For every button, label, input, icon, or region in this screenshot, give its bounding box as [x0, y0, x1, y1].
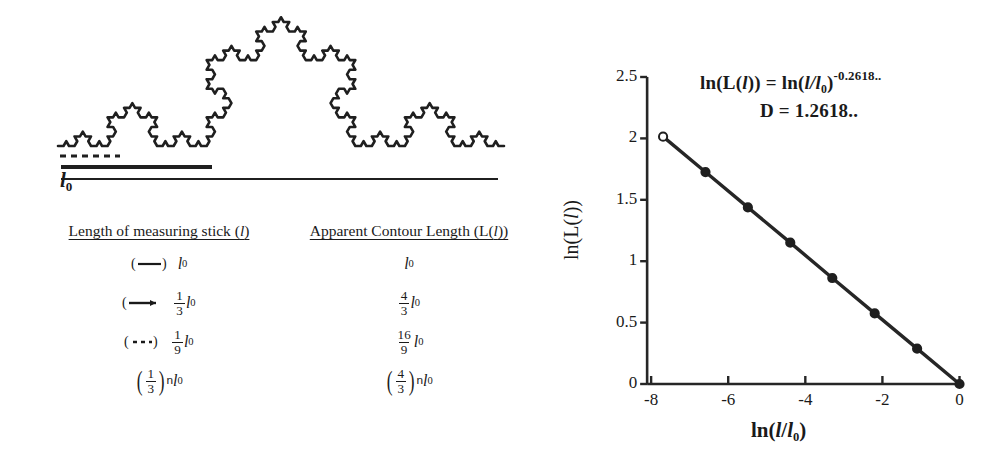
fraction-denominator: 3	[399, 303, 410, 317]
table-header-row: Length of measuring stick (l) Apparent C…	[38, 222, 538, 240]
stick-length-subscript: 0	[190, 298, 195, 309]
dimension-annotation: D = 1.2618..	[760, 100, 858, 122]
svg-text:): )	[153, 334, 158, 350]
x-axis-title: ln(l/l0)	[751, 418, 806, 445]
contour-length-exponent: n	[416, 375, 423, 387]
table-cell-contour-length: ( 4 3 )nl0	[280, 366, 538, 396]
table-cell-contour-length: 16 9 l0	[280, 327, 538, 357]
left-paren: (	[387, 369, 393, 393]
table-header-contour-length: Apparent Contour Length (L(l))	[280, 222, 538, 240]
marker-solid-thick-arrow-icon: (	[122, 295, 166, 311]
svg-text:(: (	[122, 295, 127, 311]
table-cell-contour-length: l0	[280, 249, 538, 279]
contour-length-subscript: 0	[427, 376, 432, 387]
chart-axes	[647, 77, 961, 384]
x-tick-label: -2	[857, 390, 907, 410]
table-row: ( ) 1 9 l0 16 9 l0	[38, 327, 538, 357]
table-row: ( 1 3 )nl0 ( 4 3 )nl0	[38, 366, 538, 396]
measuring-stick-lines	[0, 0, 545, 220]
chart-ticks	[640, 77, 959, 384]
right-paren: )	[159, 369, 165, 393]
baseline-length-subscript: 0	[66, 179, 73, 194]
table-cell-stick-length: ( 1 3 )nl0	[38, 366, 280, 396]
fraction-numerator: 1	[174, 289, 185, 302]
stick-length-fraction: 1 3	[174, 289, 185, 316]
stick-length-subscript: 0	[182, 259, 187, 270]
fraction-denominator: 3	[146, 381, 157, 395]
contour-length-fraction: 4 3	[396, 367, 407, 394]
fraction-denominator: 3	[174, 303, 185, 317]
table-header-stick-length: Length of measuring stick (l)	[38, 222, 280, 240]
y-tick-label: 2.5	[589, 66, 637, 86]
measuring-stick-table: Length of measuring stick (l) Apparent C…	[38, 222, 538, 396]
contour-length-fraction: 16 9	[396, 328, 413, 355]
baseline-length-label: l0	[60, 168, 72, 195]
fraction-numerator: 4	[396, 367, 407, 380]
svg-text:(: (	[124, 334, 129, 350]
fraction-denominator: 3	[396, 381, 407, 395]
stick-length-subscript: 0	[188, 337, 193, 348]
contour-length-fraction: 4 3	[399, 289, 410, 316]
y-tick-label: 1.5	[589, 189, 637, 209]
fraction-numerator: 4	[399, 289, 410, 302]
x-tick-label: 0	[935, 390, 985, 410]
stick-length-fraction: 1 9	[172, 328, 183, 355]
right-paren: )	[409, 369, 415, 393]
marker-dashed-line-icon: ( )	[124, 334, 164, 350]
koch-curve-panel: l0 Length of measuring stick (l) Apparen…	[0, 0, 545, 468]
left-paren: (	[137, 369, 143, 393]
table-cell-stick-length: ( ) l0	[38, 249, 280, 279]
table-row: ( 1 3 l0 4 3 l0	[38, 288, 538, 318]
chart-series	[659, 133, 964, 389]
contour-length-subscript: 0	[418, 337, 423, 348]
stick-length-fraction: 1 3	[146, 367, 157, 394]
table-cell-stick-length: ( 1 3 l0	[38, 288, 280, 318]
fraction-denominator: 9	[172, 342, 183, 356]
stick-length-subscript: 0	[177, 376, 182, 387]
y-tick-label: 2	[589, 127, 637, 147]
fraction-denominator: 9	[399, 342, 410, 356]
x-tick-label: -4	[780, 390, 830, 410]
svg-text:): )	[162, 256, 167, 272]
stick-length-exponent: n	[166, 375, 173, 387]
table-row: ( ) l0 l0	[38, 249, 538, 279]
marker-solid-thin-line-icon: ( )	[131, 256, 171, 272]
x-tick-label: -8	[626, 390, 676, 410]
x-tick-label: -6	[703, 390, 753, 410]
table-cell-stick-length: ( ) 1 9 l0	[38, 327, 280, 357]
fraction-numerator: 16	[396, 328, 413, 341]
fraction-numerator: 1	[172, 328, 183, 341]
contour-length-subscript: 0	[409, 259, 414, 270]
fraction-numerator: 1	[146, 367, 157, 380]
contour-length-subscript: 0	[415, 298, 420, 309]
equation-annotation: ln(L(l)) = ln(l/l0)-0.2618..	[700, 68, 882, 97]
y-tick-label: 0.5	[589, 312, 637, 332]
y-axis-title: ln(L(l))	[560, 200, 583, 260]
y-tick-label: 1	[589, 250, 637, 270]
svg-text:(: (	[131, 256, 136, 272]
table-cell-contour-length: 4 3 l0	[280, 288, 538, 318]
